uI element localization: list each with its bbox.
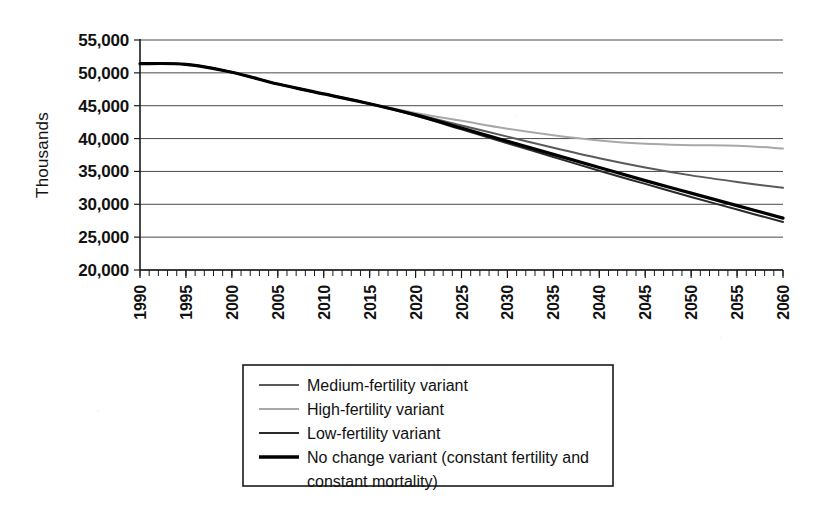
x-tick-label: 2050 — [683, 285, 700, 320]
y-tick-label: 50,000 — [78, 64, 129, 83]
legend-label-2: Low-fertility variant — [307, 425, 441, 442]
y-tick-label: 35,000 — [78, 162, 129, 181]
y-tick-label: 40,000 — [78, 130, 129, 149]
y-axis-title: Thousands — [33, 112, 52, 198]
x-tick-label: 2030 — [499, 285, 516, 320]
y-tick-label: 55,000 — [78, 31, 129, 50]
x-tick-label: 2055 — [729, 285, 746, 320]
chart-legend: Medium-fertility variantHigh-fertility v… — [243, 365, 613, 490]
x-tick-label: 2060 — [775, 285, 792, 320]
x-tick-label: 1995 — [178, 285, 195, 320]
x-tick-label: 2035 — [545, 285, 562, 320]
x-tick-label: 2045 — [637, 285, 654, 320]
legend-label-3: No change variant (constant fertility an… — [307, 449, 589, 466]
x-tick-label: 2005 — [270, 285, 287, 320]
chart-canvas: 55,00050,00045,00040,00035,00030,00025,0… — [0, 0, 819, 527]
y-tick-label: 20,000 — [78, 261, 129, 280]
y-tick-label: 30,000 — [78, 195, 129, 214]
x-tick-label: 2015 — [362, 285, 379, 320]
y-tick-label: 25,000 — [78, 228, 129, 247]
x-tick-label-group: 1990199520002005201020152020202520302035… — [132, 285, 792, 320]
legend-label-4: constant mortality) — [307, 473, 438, 490]
legend-label-1: High-fertility variant — [307, 401, 444, 418]
legend-label-0: Medium-fertility variant — [307, 377, 468, 394]
x-tick-label: 2025 — [454, 285, 471, 320]
x-tick-label: 2020 — [408, 285, 425, 320]
x-tick-label: 1990 — [132, 285, 149, 320]
y-tick-label: 45,000 — [78, 97, 129, 116]
x-tick-label: 2010 — [316, 285, 333, 320]
population-projection-chart: 55,00050,00045,00040,00035,00030,00025,0… — [0, 0, 819, 527]
x-tick-label: 2040 — [591, 285, 608, 320]
x-tick-label: 2000 — [224, 285, 241, 320]
